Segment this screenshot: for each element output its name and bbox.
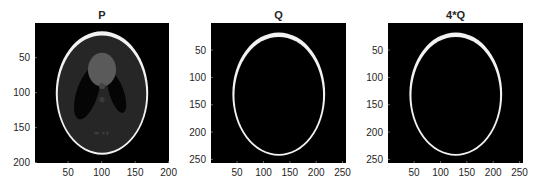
- x-tick-label: 50: [232, 167, 244, 178]
- x-tick-label: 50: [63, 167, 75, 178]
- ring-image: [232, 32, 325, 155]
- x-tick-label: 150: [127, 167, 144, 178]
- subplot-title: P: [98, 9, 105, 21]
- subplot-2: 5010015020025050100150200250Q: [189, 9, 351, 178]
- x-tick-label: 200: [485, 167, 502, 178]
- x-tick-label: 250: [511, 167, 528, 178]
- x-tick-label: 100: [432, 167, 449, 178]
- x-tick-label: 100: [93, 167, 110, 178]
- x-tick-label: 200: [308, 167, 325, 178]
- x-tick-label: 150: [458, 167, 475, 178]
- y-tick-label: 200: [366, 127, 383, 138]
- y-tick-label: 50: [19, 52, 31, 63]
- x-tick-label: 150: [281, 167, 298, 178]
- y-tick-label: 50: [195, 45, 207, 56]
- y-tick-label: 50: [372, 45, 384, 56]
- y-tick-label: 250: [366, 154, 383, 165]
- y-tick-label: 100: [189, 72, 206, 83]
- y-tick-label: 150: [366, 99, 383, 110]
- subplot-title: Q: [274, 9, 283, 21]
- figure: 5010015020050100150200P50100150200250501…: [0, 0, 544, 189]
- x-tick-label: 50: [409, 167, 421, 178]
- ring-image: [409, 32, 502, 155]
- y-tick-label: 250: [189, 154, 206, 165]
- subplot-title: 4*Q: [446, 9, 465, 21]
- y-tick-label: 100: [366, 72, 383, 83]
- y-tick-label: 150: [13, 122, 30, 133]
- y-tick-label: 100: [13, 87, 30, 98]
- subplot-3: 50100150200250501001502002504*Q: [366, 9, 528, 178]
- x-tick-label: 200: [160, 167, 177, 178]
- x-tick-label: 100: [255, 167, 272, 178]
- y-tick-label: 200: [189, 127, 206, 138]
- phantom-image: [56, 31, 148, 154]
- y-tick-label: 150: [189, 99, 206, 110]
- y-tick-label: 200: [13, 157, 30, 168]
- x-tick-label: 250: [334, 167, 351, 178]
- subplot-1: 5010015020050100150200P: [13, 9, 177, 178]
